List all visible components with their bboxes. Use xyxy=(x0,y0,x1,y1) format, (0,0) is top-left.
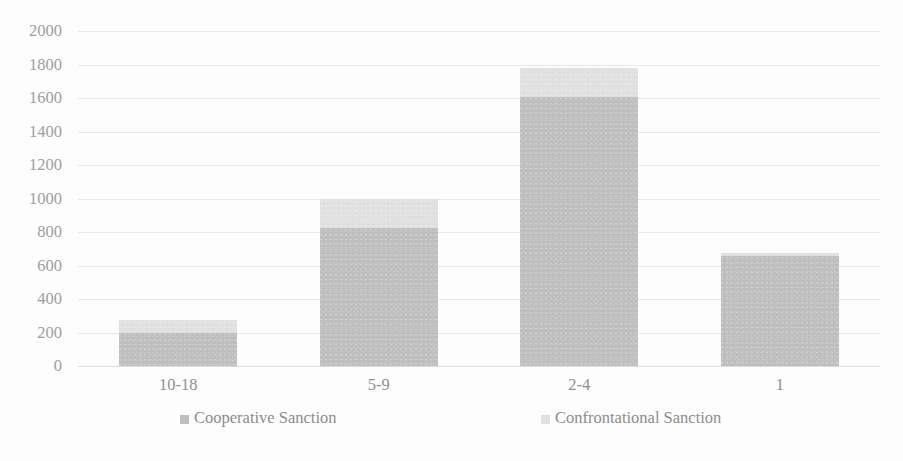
legend-item-confrontational-sanction[interactable]: Confrontational Sanction xyxy=(541,410,721,427)
x-tick-label: 5-9 xyxy=(368,377,390,394)
bar-texture xyxy=(320,199,438,227)
bar-segment-confrontational-sanction[interactable] xyxy=(119,320,237,333)
bars-layer xyxy=(78,31,880,366)
stacked-bar-chart: 2000 1800 1600 1400 1200 1000 800 600 40… xyxy=(0,0,903,461)
bar-texture xyxy=(721,253,839,256)
chart-legend: Cooperative Sanction Confrontational San… xyxy=(0,410,903,434)
bar-segment-cooperative-sanction[interactable] xyxy=(721,256,839,366)
bar-group[interactable] xyxy=(119,320,237,366)
bar-segment-confrontational-sanction[interactable] xyxy=(520,68,638,97)
bar-group[interactable] xyxy=(520,68,638,366)
bar-texture xyxy=(520,97,638,366)
bar-segment-confrontational-sanction[interactable] xyxy=(320,199,438,227)
bar-texture xyxy=(721,256,839,366)
y-tick-label: 1000 xyxy=(0,190,62,207)
bar-segment-cooperative-sanction[interactable] xyxy=(320,228,438,366)
legend-item-cooperative-sanction[interactable]: Cooperative Sanction xyxy=(180,410,337,427)
gridline-0 xyxy=(78,366,880,367)
x-tick-label: 1 xyxy=(776,377,784,394)
y-tick-label: 0 xyxy=(0,358,62,375)
bar-texture xyxy=(119,333,237,367)
bar-segment-confrontational-sanction[interactable] xyxy=(721,253,839,256)
bar-texture xyxy=(119,320,237,333)
y-tick-label: 1400 xyxy=(0,123,62,140)
y-tick-label: 800 xyxy=(0,224,62,241)
legend-swatch-icon xyxy=(180,415,189,424)
bar-texture xyxy=(320,228,438,366)
bar-texture xyxy=(520,68,638,97)
plot-area: 2000 1800 1600 1400 1200 1000 800 600 40… xyxy=(78,31,880,366)
bar-group[interactable] xyxy=(721,253,839,366)
legend-label: Confrontational Sanction xyxy=(555,410,721,427)
y-tick-label: 2000 xyxy=(0,23,62,40)
y-tick-label: 600 xyxy=(0,257,62,274)
x-tick-label: 2-4 xyxy=(568,377,590,394)
legend-label: Cooperative Sanction xyxy=(194,410,337,427)
y-tick-label: 1800 xyxy=(0,56,62,73)
x-tick-label: 10-18 xyxy=(159,377,198,394)
y-tick-label: 1200 xyxy=(0,157,62,174)
y-tick-label: 200 xyxy=(0,324,62,341)
bar-segment-cooperative-sanction[interactable] xyxy=(520,97,638,366)
y-tick-label: 400 xyxy=(0,291,62,308)
bar-segment-cooperative-sanction[interactable] xyxy=(119,333,237,367)
bar-group[interactable] xyxy=(320,199,438,366)
y-tick-label: 1600 xyxy=(0,90,62,107)
legend-swatch-icon xyxy=(541,415,550,424)
